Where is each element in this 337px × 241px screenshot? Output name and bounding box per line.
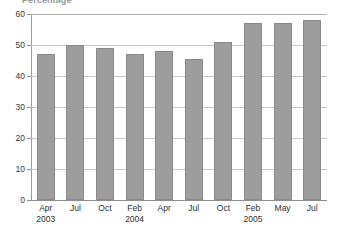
x-tick-year: 2004	[120, 214, 150, 225]
plot-area	[31, 14, 327, 200]
gridline-0	[31, 200, 327, 201]
bar	[185, 59, 203, 200]
y-tick-mark-60	[27, 14, 31, 15]
y-tick-label-40: 40	[3, 72, 25, 81]
x-tick-month: May	[275, 203, 291, 213]
x-tick-month: Jul	[307, 203, 318, 213]
x-tick-month: Feb	[127, 203, 142, 213]
x-tick-month: Jul	[188, 203, 199, 213]
x-tick-month: Oct	[217, 203, 230, 213]
x-tick-year: 2003	[31, 214, 61, 225]
y-tick-label-20: 20	[3, 134, 25, 143]
bar	[274, 23, 292, 200]
x-tick-month: Feb	[246, 203, 261, 213]
x-tick-label: Feb2005	[238, 203, 268, 225]
x-tick-label: Oct	[209, 203, 239, 214]
bar	[155, 51, 173, 200]
y-axis-labels: 0102030405060	[0, 0, 25, 241]
bar-chart: Percentage 0102030405060 Apr2003JulOctFe…	[0, 0, 337, 241]
y-tick-mark-20	[27, 138, 31, 139]
x-tick-label: Feb2004	[120, 203, 150, 225]
y-tick-mark-10	[27, 169, 31, 170]
gridline-60	[31, 14, 327, 15]
x-tick-label: Jul	[61, 203, 91, 214]
bar	[66, 45, 84, 200]
y-tick-mark-30	[27, 107, 31, 108]
x-tick-label: Apr2003	[31, 203, 61, 225]
y-tick-label-0: 0	[3, 196, 25, 205]
x-tick-label: Oct	[90, 203, 120, 214]
y-tick-label-30: 30	[3, 103, 25, 112]
y-tick-mark-0	[27, 200, 31, 201]
bar	[37, 54, 55, 200]
y-tick-mark-40	[27, 76, 31, 77]
x-tick-month: Apr	[39, 203, 52, 213]
x-tick-month: Apr	[158, 203, 171, 213]
bar	[214, 42, 232, 200]
x-tick-label: Apr	[149, 203, 179, 214]
x-tick-label: May	[268, 203, 298, 214]
x-tick-month: Oct	[98, 203, 111, 213]
x-tick-label: Jul	[179, 203, 209, 214]
bar	[126, 54, 144, 200]
x-axis-labels: Apr2003JulOctFeb2004AprJulOctFeb2005MayJ…	[31, 203, 327, 241]
x-tick-month: Jul	[70, 203, 81, 213]
y-tick-label-10: 10	[3, 165, 25, 174]
y-tick-mark-50	[27, 45, 31, 46]
y-tick-label-50: 50	[3, 41, 25, 50]
x-tick-label: Jul	[297, 203, 327, 214]
bar	[96, 48, 114, 200]
y-tick-label-60: 60	[3, 10, 25, 19]
bar	[303, 20, 321, 200]
bar	[244, 23, 262, 200]
x-tick-year: 2005	[238, 214, 268, 225]
chart-title: Percentage	[22, 0, 72, 5]
